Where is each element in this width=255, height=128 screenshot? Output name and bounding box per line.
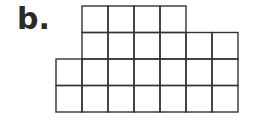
grid-square [212, 33, 238, 60]
grid-square [134, 6, 160, 33]
grid-square [56, 59, 82, 86]
grid-square [186, 33, 212, 60]
grid-square [160, 6, 186, 33]
grid-square [134, 33, 160, 60]
grid-square [82, 86, 108, 113]
grid-square [56, 86, 82, 113]
grid-square [160, 86, 186, 113]
grid-square [108, 59, 134, 86]
grid-square [160, 33, 186, 60]
grid-square [108, 6, 134, 33]
grid-square [82, 6, 108, 33]
grid-square [186, 86, 212, 113]
grid-square [82, 59, 108, 86]
grid-square [108, 33, 134, 60]
grid-square [160, 59, 186, 86]
grid-square [82, 33, 108, 60]
square-grid-figure [0, 0, 255, 128]
grid-square [108, 86, 134, 113]
grid-square [212, 86, 238, 113]
grid-square [134, 59, 160, 86]
grid-square [186, 59, 212, 86]
grid-square [212, 59, 238, 86]
grid-square [134, 86, 160, 113]
